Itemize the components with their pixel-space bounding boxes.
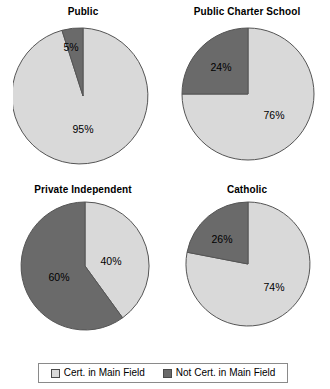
legend-entry-not-certified: Not Cert. in Main Field <box>163 368 275 378</box>
legend-label-not-certified: Not Cert. in Main Field <box>176 368 275 378</box>
slice-label-not-certified: 24% <box>210 61 231 73</box>
pie-svg-catholic: 26% 74% <box>184 200 312 328</box>
panel-title-public-charter-school: Public Charter School <box>166 6 328 17</box>
slice-label-certified: 76% <box>263 109 284 121</box>
slice-label-certified: 95% <box>72 123 93 135</box>
pie-svg-public: 95% 5% <box>13 26 153 166</box>
chart-legend: Cert. in Main Field Not Cert. in Main Fi… <box>38 363 288 383</box>
slice-label-not-certified: 26% <box>211 233 232 245</box>
pie-chart-public-charter-school: 24% 76% <box>180 26 316 162</box>
pie-chart-catholic: 26% 74% <box>184 200 312 328</box>
panel-title-private-independent: Private Independent <box>2 184 164 195</box>
legend-entry-certified: Cert. in Main Field <box>51 368 145 378</box>
legend-swatch-not-certified-icon <box>163 369 172 378</box>
legend-swatch-certified-icon <box>51 369 60 378</box>
panel-title-catholic: Catholic <box>166 184 328 195</box>
pie-svg-charter: 24% 76% <box>180 26 316 162</box>
pie-panel-private-independent: Private Independent 40% 60% <box>2 184 164 352</box>
slice-label-certified: 74% <box>263 281 284 293</box>
pie-svg-private: 40% 60% <box>19 200 151 332</box>
pie-panel-catholic: Catholic 26% 74% <box>166 184 328 352</box>
slice-label-certified: 40% <box>100 255 121 267</box>
pie-chart-public: 95% 5% <box>13 26 153 166</box>
pie-chart-private-independent: 40% 60% <box>19 200 151 332</box>
legend-label-certified: Cert. in Main Field <box>64 368 145 378</box>
panel-title-public: Public <box>2 6 164 17</box>
pie-panel-public: Public 95% 5% <box>2 6 164 181</box>
pie-panel-public-charter-school: Public Charter School 24% 76% <box>166 6 328 181</box>
slice-label-not-certified: 5% <box>63 41 78 53</box>
slice-label-not-certified: 60% <box>48 271 69 283</box>
